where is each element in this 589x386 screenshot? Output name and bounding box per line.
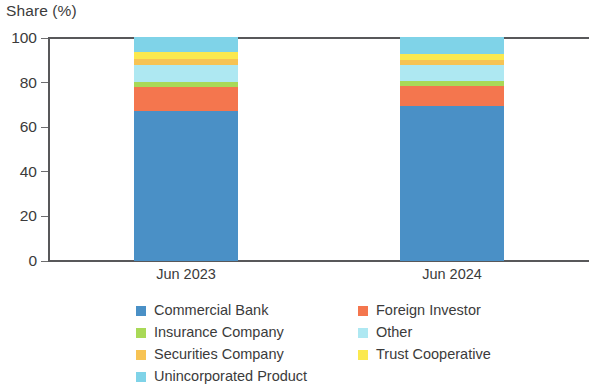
- y-tick-label: 60: [0, 119, 37, 135]
- y-tick-mark: [41, 261, 48, 262]
- plot-top-border: [48, 37, 589, 39]
- legend-swatch-icon: [136, 372, 146, 382]
- bar-segment-commercial-bank: [400, 105, 504, 261]
- y-tick-mark: [41, 127, 48, 128]
- bar-segment-foreign-investor: [400, 85, 504, 106]
- bar-segment-securities-company: [400, 59, 504, 64]
- bar-segment-trust-cooperative: [400, 53, 504, 60]
- legend-column-left: Commercial BankInsurance CompanySecuriti…: [136, 300, 307, 386]
- y-tick-mark: [41, 216, 48, 217]
- x-axis-label: Jun 2023: [96, 266, 276, 282]
- legend-item-label: Other: [376, 325, 412, 340]
- legend-swatch-icon: [136, 328, 146, 338]
- bar-segment-trust-cooperative: [134, 51, 238, 58]
- bar-jun-2023: [134, 38, 238, 261]
- x-axis-line: [48, 260, 589, 262]
- legend-swatch-icon: [136, 306, 146, 316]
- legend-item[interactable]: Securities Company: [136, 344, 307, 365]
- legend-column-right: Foreign InvestorOtherTrust Cooperative: [358, 300, 491, 366]
- legend-item-label: Securities Company: [154, 347, 284, 362]
- y-tick-label: 40: [0, 164, 37, 180]
- legend-item[interactable]: Trust Cooperative: [358, 344, 491, 365]
- legend-item[interactable]: Commercial Bank: [136, 300, 307, 321]
- x-axis-label: Jun 2024: [362, 266, 542, 282]
- y-tick-mark: [41, 82, 48, 83]
- bar-segment-unincorporated-product: [134, 37, 238, 52]
- legend-item[interactable]: Other: [358, 322, 491, 343]
- y-tick-label: 20: [0, 208, 37, 224]
- y-tick-mark: [41, 38, 48, 39]
- legend-item[interactable]: Foreign Investor: [358, 300, 491, 321]
- bar-segment-securities-company: [134, 58, 238, 65]
- bar-segment-foreign-investor: [134, 86, 238, 111]
- legend-swatch-icon: [358, 306, 368, 316]
- legend-item-label: Foreign Investor: [376, 303, 481, 318]
- legend-item-label: Commercial Bank: [154, 303, 268, 318]
- y-tick-label: 100: [0, 30, 37, 46]
- y-tick-label: 80: [0, 75, 37, 91]
- bar-segment-insurance-company: [400, 80, 504, 86]
- y-axis-title: Share (%): [6, 2, 77, 20]
- bar-jun-2024: [400, 38, 504, 261]
- y-axis-line: [48, 38, 50, 262]
- legend-swatch-icon: [136, 350, 146, 360]
- legend-swatch-icon: [358, 328, 368, 338]
- legend-item[interactable]: Insurance Company: [136, 322, 307, 343]
- bar-segment-other: [400, 64, 504, 81]
- bar-segment-unincorporated-product: [400, 37, 504, 54]
- bar-segment-commercial-bank: [134, 110, 238, 261]
- bar-segment-insurance-company: [134, 81, 238, 87]
- legend-swatch-icon: [358, 350, 368, 360]
- legend-item-label: Insurance Company: [154, 325, 284, 340]
- legend-item-label: Trust Cooperative: [376, 347, 491, 362]
- stacked-bar-chart: Share (%) 100806040200 Jun 2023Jun 2024 …: [0, 0, 589, 386]
- legend-item[interactable]: Unincorporated Product: [136, 366, 307, 386]
- legend-item-label: Unincorporated Product: [154, 369, 307, 384]
- y-tick-label: 0: [0, 253, 37, 269]
- y-tick-mark: [41, 171, 48, 172]
- bar-segment-other: [134, 65, 238, 82]
